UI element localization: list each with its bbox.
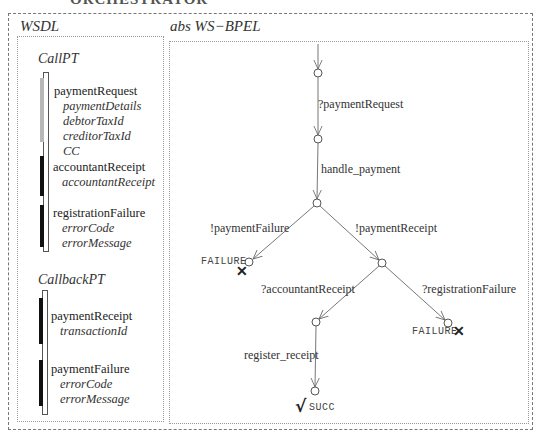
transition-label: register_receipt: [244, 348, 319, 363]
state-node: [312, 318, 320, 326]
transition-label: ?accountantReceipt: [261, 282, 355, 297]
state-node: [313, 199, 321, 207]
failure-x-icon: ✕: [453, 323, 465, 340]
success-check-icon: √: [295, 396, 306, 416]
state-node: [314, 69, 322, 77]
transition-label: ?registrationFailure: [422, 282, 516, 297]
failure-x-icon: ✕: [236, 263, 248, 280]
state-node: [378, 259, 386, 267]
transition-label: !paymentFailure: [210, 221, 289, 236]
failure-state-label: FAILURE: [412, 326, 458, 337]
state-node-success: [311, 387, 319, 395]
transition-label: ?paymentRequest: [318, 97, 403, 112]
transition-label: handle_payment: [321, 162, 400, 177]
transition-label: !paymentReceipt: [355, 221, 437, 236]
edge-handle-payment: [317, 143, 318, 199]
success-state-label: SUCC: [309, 402, 335, 413]
state-node: [314, 135, 322, 143]
